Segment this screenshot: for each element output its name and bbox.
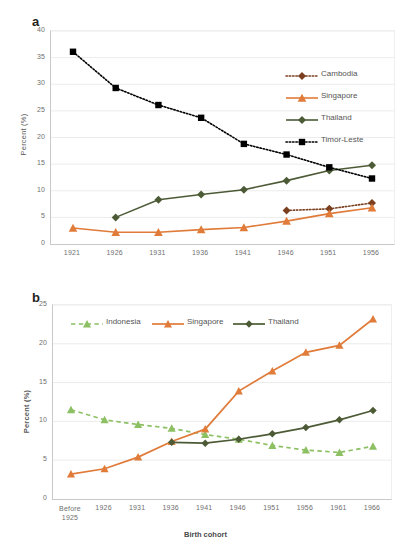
data-point-marker xyxy=(67,406,75,413)
legend-swatch xyxy=(285,136,319,148)
data-point-marker xyxy=(197,190,205,198)
x-tick-label: 1936 xyxy=(180,249,220,256)
data-point-marker xyxy=(70,49,76,55)
legend-swatch xyxy=(70,318,104,330)
series-line xyxy=(73,208,372,232)
y-tick-label: 5 xyxy=(19,212,45,219)
legend-label: Timor-Leste xyxy=(321,135,363,144)
y-tick-label: 25 xyxy=(19,106,45,113)
data-point-marker xyxy=(154,196,162,204)
legend-label: Thailand xyxy=(268,317,299,326)
series-line xyxy=(172,411,373,444)
panel-b: b Percent (%) 0510152025 Before192519261… xyxy=(0,282,411,550)
data-point-marker xyxy=(134,453,142,460)
panel-a: a Percent (%) 0510152025303540 192119261… xyxy=(0,0,411,282)
data-point-marker xyxy=(369,315,377,322)
y-tick-label: 25 xyxy=(21,300,47,307)
data-point-marker xyxy=(369,407,377,415)
y-tick-label: 40 xyxy=(19,26,45,33)
data-point-marker xyxy=(268,367,276,374)
x-tick-label: 1946 xyxy=(266,249,306,256)
y-tick-label: 35 xyxy=(19,53,45,60)
data-point-marker xyxy=(336,416,344,424)
legend-label: Singapore xyxy=(321,91,357,100)
data-point-marker xyxy=(369,442,377,449)
legend-label: Indonesia xyxy=(106,317,141,326)
panel-b-x-axis-label: Birth cohort xyxy=(0,530,411,539)
data-point-marker xyxy=(245,320,253,328)
y-tick-label: 20 xyxy=(21,339,47,346)
data-point-marker xyxy=(240,186,248,194)
data-point-marker xyxy=(113,85,119,91)
data-point-marker xyxy=(368,161,376,169)
data-point-marker xyxy=(283,151,289,157)
y-tick-label: 0 xyxy=(21,494,47,501)
legend-swatch xyxy=(151,318,185,330)
legend-swatch xyxy=(232,318,266,330)
y-tick-label: 20 xyxy=(19,133,45,140)
panel-b-y-axis-label: Percent (%) xyxy=(22,382,31,442)
data-point-marker xyxy=(198,115,204,121)
x-tick-label: 1926 xyxy=(95,249,135,256)
data-point-marker xyxy=(155,102,161,108)
data-point-marker xyxy=(302,424,310,432)
legend-swatch xyxy=(285,92,319,104)
data-point-marker xyxy=(235,387,243,394)
data-point-marker xyxy=(298,116,306,124)
legend-label: Singapore xyxy=(187,317,223,326)
data-point-marker xyxy=(299,139,305,145)
legend-label: Thailand xyxy=(321,113,352,122)
y-tick-label: 5 xyxy=(21,455,47,462)
panel-b-plot-area xyxy=(52,304,392,500)
y-tick-label: 10 xyxy=(19,186,45,193)
data-point-marker xyxy=(241,141,247,147)
x-tick-label: 1941 xyxy=(223,249,263,256)
series-line xyxy=(71,410,373,453)
x-tick-label: 1956 xyxy=(351,249,391,256)
y-tick-label: 30 xyxy=(19,79,45,86)
y-tick-label: 10 xyxy=(21,416,47,423)
data-point-marker xyxy=(283,206,291,214)
figure: a Percent (%) 0510152025303540 192119261… xyxy=(0,0,411,550)
x-tick-label: 1951 xyxy=(308,249,348,256)
y-tick-label: 15 xyxy=(21,378,47,385)
legend-swatch xyxy=(285,70,319,82)
y-tick-label: 15 xyxy=(19,159,45,166)
data-point-marker xyxy=(201,439,209,447)
data-point-marker xyxy=(112,213,120,221)
data-point-marker xyxy=(269,430,277,437)
x-tick-label: 1966 xyxy=(352,504,392,511)
data-point-marker xyxy=(283,177,291,185)
y-tick-label: 0 xyxy=(19,239,45,246)
data-point-marker xyxy=(326,164,332,170)
data-point-marker xyxy=(298,72,306,80)
legend-swatch xyxy=(285,114,319,126)
x-tick-label: 1921 xyxy=(52,249,92,256)
data-point-marker xyxy=(369,175,375,181)
legend-label: Cambodia xyxy=(321,69,357,78)
x-tick-label: 1931 xyxy=(137,249,177,256)
